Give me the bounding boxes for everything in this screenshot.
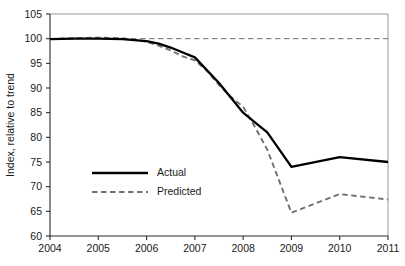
legend-label-actual: Actual xyxy=(157,166,186,178)
x-tick-label: 2011 xyxy=(377,242,400,254)
series-line-actual xyxy=(50,39,388,167)
plot-frame xyxy=(50,14,388,236)
y-tick-label: 70 xyxy=(30,180,42,192)
chart-legend: Actual Predicted xyxy=(92,166,202,197)
x-tick-label: 2009 xyxy=(280,242,304,254)
x-tick-label: 2004 xyxy=(38,242,62,254)
x-tick-label: 2006 xyxy=(135,242,159,254)
x-axis-ticks: 20042005200620072008200920102011 xyxy=(38,236,399,254)
x-tick-label: 2008 xyxy=(231,242,255,254)
y-tick-label: 105 xyxy=(24,8,42,20)
x-tick-label: 2010 xyxy=(328,242,352,254)
legend-label-predicted: Predicted xyxy=(157,185,202,197)
y-axis-title: Index, relative to trend xyxy=(4,73,16,177)
y-tick-label: 90 xyxy=(30,82,42,94)
y-tick-label: 65 xyxy=(30,205,42,217)
y-tick-label: 75 xyxy=(30,156,42,168)
series-line-predicted xyxy=(50,38,388,213)
y-tick-label: 85 xyxy=(30,106,42,118)
y-tick-label: 100 xyxy=(24,32,42,44)
y-axis-ticks: 6065707580859095100105 xyxy=(24,8,50,242)
y-tick-label: 95 xyxy=(30,57,42,69)
chart-container: 6065707580859095100105 20042005200620072… xyxy=(0,0,405,266)
line-chart-svg: 6065707580859095100105 20042005200620072… xyxy=(0,0,405,266)
y-tick-label: 80 xyxy=(30,131,42,143)
x-tick-label: 2007 xyxy=(183,242,207,254)
y-tick-label: 60 xyxy=(30,230,42,242)
x-tick-label: 2005 xyxy=(87,242,111,254)
